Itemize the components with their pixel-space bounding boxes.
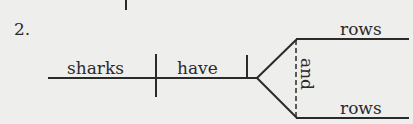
item-number: 2. xyxy=(14,19,30,39)
fork-lower-branch xyxy=(257,78,297,118)
sentence-diagram: 2. sharks have and rows rows xyxy=(0,0,413,124)
fork-upper-branch xyxy=(257,39,297,78)
conjunction-word: and xyxy=(297,58,317,90)
verb-word: have xyxy=(177,58,218,78)
subject-word: sharks xyxy=(67,58,124,78)
upper-object-word: rows xyxy=(340,19,382,39)
lower-object-word: rows xyxy=(340,98,382,118)
